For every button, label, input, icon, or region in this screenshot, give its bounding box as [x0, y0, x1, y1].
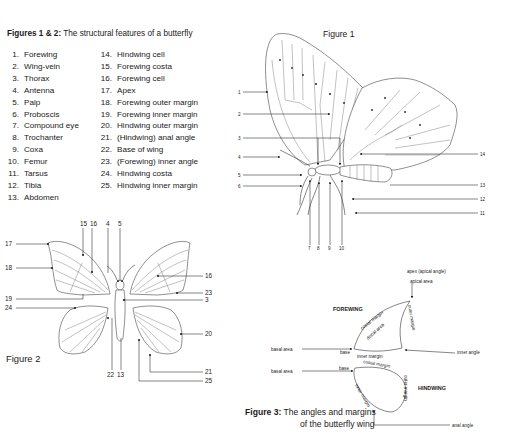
fig3-basal-area-hw: basal area [271, 369, 293, 374]
fig2-label-22: 22 [107, 371, 115, 378]
figure-2-drawing [16, 228, 203, 381]
fig3-basal-area-fw: basal area [271, 347, 293, 352]
fig2-label-5: 5 [118, 220, 122, 227]
fig1-label-8: 8 [317, 246, 320, 251]
fig2-label-13: 13 [117, 371, 125, 378]
fig1-label-11: 11 [480, 211, 485, 216]
fig3-apical-area-label: apical area [410, 279, 433, 284]
fig2-label-20: 20 [205, 330, 213, 337]
fig2-label-25: 25 [205, 377, 213, 384]
fig1-label-12: 12 [480, 197, 486, 202]
fig2-label-15: 15 [80, 220, 88, 227]
fig1-label-9: 9 [328, 246, 331, 251]
fig3-forewing-label: FOREWING [333, 306, 363, 312]
fig1-label-1: 1 [238, 90, 241, 95]
fig1-label-14: 14 [480, 152, 486, 157]
fig3-base-hw: base [339, 366, 349, 371]
fig1-label-4: 4 [238, 155, 241, 160]
fig1-label-5: 5 [238, 173, 241, 178]
fig2-label-18: 18 [5, 264, 13, 271]
fig2-label-17: 17 [5, 240, 13, 247]
fig2-label-23: 23 [205, 289, 213, 296]
fig1-label-7: 7 [308, 246, 311, 251]
fig1-label-10: 10 [339, 246, 345, 251]
fig2-label-21: 21 [205, 368, 213, 375]
fig1-label-3: 3 [238, 136, 241, 141]
fig3-apex-label: apex (apical angle) [407, 269, 446, 274]
fig2-label-24: 24 [5, 304, 13, 311]
fig3-outer-margin-fw: outer margin [407, 304, 416, 331]
fig1-label-2: 2 [238, 112, 241, 117]
fig2-label-4: 4 [106, 220, 110, 227]
fig3-anal-angle: anal angle [452, 423, 474, 428]
fig2-label-16: 16 [90, 220, 98, 227]
figure-1-drawing: 1 2 3 4 5 6 14 13 12 11 7 8 9 10 [0, 0, 509, 443]
fig3-inner-margin-fw: inner margin [357, 354, 383, 359]
fig2-label-19: 19 [5, 295, 13, 302]
fig3-inner-angle: inner angle [457, 350, 480, 355]
figure-1-hindwing [343, 78, 457, 170]
fig3-outer-margin-hw: outer margin [403, 375, 408, 401]
fig3-hindwing-label: HINDWING [418, 385, 446, 391]
fig1-label-6: 6 [238, 184, 241, 189]
fig3-inner-margin-hw: inner margin [354, 383, 371, 408]
fig1-label-13: 13 [480, 183, 486, 188]
fig3-base-fw: base [340, 350, 350, 355]
fig2-label-3: 3 [205, 296, 209, 303]
fig2-label-16-right: 16 [205, 272, 213, 279]
